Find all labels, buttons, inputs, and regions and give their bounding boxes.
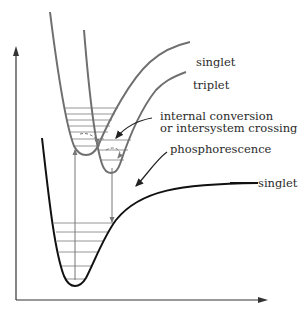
label-excited-singlet: singlet (196, 55, 236, 69)
ground-singlet-curve (42, 138, 258, 286)
triplet-relaxation-dashed-arrow (106, 148, 120, 158)
y-axis-arrowhead (13, 46, 19, 56)
x-axis-arrowhead (258, 297, 268, 303)
phosphorescence-leader-line (136, 152, 167, 186)
label-triplet: triplet (193, 78, 230, 92)
label-process-line2: or intersystem crossing (160, 121, 298, 135)
label-ground-singlet: singlet (258, 176, 298, 190)
energy-diagram: singlet triplet internal conversion or i… (0, 0, 303, 313)
label-phosphorescence: phosphorescence (170, 142, 272, 156)
excited-singlet-leader (190, 38, 220, 42)
